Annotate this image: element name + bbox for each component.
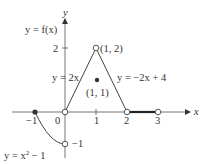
point-label-1-1: (1, 1) [86,87,109,99]
parabola-label: y = x2 − 1 [4,149,46,161]
x-tick-label-0: 0 [55,115,60,126]
graph-canvas: y x y = f(x) 2 −1 0 1 2 3 −1 (1, 2) (1, … [0,0,202,164]
point-1-1-filled [95,78,99,82]
point-label-1-2: (1, 2) [100,43,123,55]
point-neg1-0-filled [32,109,37,114]
y-tick-label-neg1: −1 [72,138,83,149]
line-label-neg2x4: y = −2x + 4 [117,72,167,83]
point-0-0-open [62,109,68,115]
line-label-2x: y = 2x [52,72,80,83]
point-3-0-open [155,109,161,115]
x-axis-label: x [193,106,199,117]
y-axis-label: y [62,7,68,18]
x-tick-label-1: 1 [94,115,99,126]
parabola-curve [35,112,65,144]
y-tick-label-2: 2 [53,43,58,54]
x-tick-label-2: 2 [124,115,129,126]
point-0-neg1-open [62,141,68,147]
point-1-2-open [93,45,99,51]
x-tick-label-3: 3 [155,115,160,126]
function-label: y = f(x) [25,24,58,36]
x-tick-label-neg1: −1 [26,115,37,126]
point-2-0-open [124,109,130,115]
